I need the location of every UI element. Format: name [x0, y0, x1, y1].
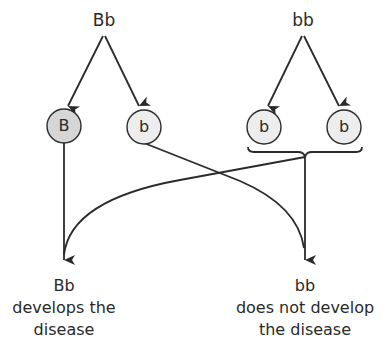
- offspring-right-line1: does not develop: [235, 297, 375, 319]
- allele-label: b: [249, 117, 279, 136]
- arrow-bb-to-B: [68, 36, 103, 106]
- allele-label: B: [49, 116, 79, 135]
- arrow-right-to-b1: [268, 36, 302, 106]
- offspring-left: Bb develops the disease: [4, 275, 124, 341]
- offspring-right: bb does not develop the disease: [235, 275, 375, 341]
- line-b-to-bb: [144, 143, 304, 248]
- line-brace-to-Bb: [64, 157, 305, 255]
- offspring-left-genotype: Bb: [4, 275, 124, 297]
- arrow-bb-to-b: [105, 36, 139, 106]
- inheritance-diagram: Bb bb B b b b Bb develops the disease bb…: [0, 0, 389, 364]
- offspring-right-genotype: bb: [235, 275, 375, 297]
- offspring-left-line1: develops the: [4, 297, 124, 319]
- parent-left-genotype: Bb: [84, 10, 124, 30]
- offspring-right-line2: the disease: [235, 319, 375, 341]
- allele-label: b: [329, 117, 359, 136]
- arrow-right-to-b2: [304, 36, 339, 106]
- brace: [248, 147, 362, 157]
- allele-label: b: [129, 117, 159, 136]
- parent-right-genotype: bb: [283, 10, 323, 30]
- offspring-left-line2: disease: [4, 319, 124, 341]
